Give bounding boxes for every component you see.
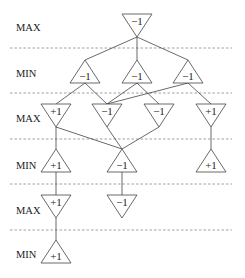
tree-edge bbox=[107, 127, 122, 149]
node-value: +1 bbox=[50, 250, 62, 262]
min-node: −1 bbox=[107, 149, 137, 172]
node-value: +1 bbox=[205, 159, 217, 171]
min-node: +1 bbox=[196, 149, 226, 172]
node-value: −1 bbox=[79, 70, 91, 82]
min-node: +1 bbox=[41, 240, 71, 263]
tree-edge bbox=[107, 83, 188, 104]
tree-edge bbox=[188, 83, 211, 104]
level-label-max: MAX bbox=[16, 113, 41, 124]
max-node: +1 bbox=[196, 104, 226, 127]
max-node: −1 bbox=[107, 195, 137, 218]
tree-edge bbox=[107, 83, 137, 104]
node-value: −1 bbox=[116, 196, 128, 208]
max-node: −1 bbox=[92, 104, 122, 127]
level-label-min: MIN bbox=[16, 68, 37, 79]
max-node: −1 bbox=[122, 14, 152, 37]
tree-edge bbox=[56, 127, 122, 149]
game-tree-diagram: MAXMINMAXMINMAXMIN −1−1−1−1+1−1−1+1+1−1+… bbox=[0, 0, 245, 278]
level-label-max: MAX bbox=[16, 205, 41, 216]
min-node: −1 bbox=[122, 60, 152, 83]
node-value: +1 bbox=[205, 105, 217, 117]
tree-edge bbox=[85, 83, 107, 104]
min-node: +1 bbox=[41, 149, 71, 172]
level-label-max: MAX bbox=[16, 22, 41, 33]
node-value: −1 bbox=[116, 159, 128, 171]
node-value: +1 bbox=[50, 159, 62, 171]
node-value: +1 bbox=[50, 105, 62, 117]
node-value: −1 bbox=[182, 70, 194, 82]
node-value: −1 bbox=[131, 15, 143, 27]
tree-edge bbox=[122, 127, 159, 149]
max-node: +1 bbox=[41, 104, 71, 127]
tree-nodes: −1−1−1−1+1−1−1+1+1−1+1+1−1+1 bbox=[41, 14, 226, 263]
node-value: +1 bbox=[50, 196, 62, 208]
node-value: −1 bbox=[131, 70, 143, 82]
level-label-min: MIN bbox=[16, 249, 37, 260]
min-node: −1 bbox=[70, 60, 100, 83]
node-value: −1 bbox=[153, 105, 165, 117]
node-value: −1 bbox=[101, 105, 113, 117]
tree-edge bbox=[56, 83, 85, 104]
tree-edge bbox=[85, 37, 137, 60]
level-label-min: MIN bbox=[16, 160, 37, 171]
tree-edge bbox=[137, 37, 188, 60]
max-node: −1 bbox=[144, 104, 174, 127]
max-node: +1 bbox=[41, 195, 71, 218]
level-labels: MAXMINMAXMINMAXMIN bbox=[16, 22, 41, 260]
min-node: −1 bbox=[173, 60, 203, 83]
